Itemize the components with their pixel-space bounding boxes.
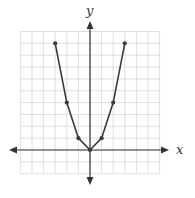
data-point xyxy=(100,136,104,140)
data-point xyxy=(88,148,92,152)
y-axis-label: y xyxy=(85,3,94,18)
data-point xyxy=(123,41,127,45)
y-axis-arrow-up-icon xyxy=(87,21,94,29)
x-axis-arrow-left-icon xyxy=(9,147,17,154)
x-axis-arrow-right-icon xyxy=(161,147,169,154)
data-point xyxy=(111,101,115,105)
parabola-chart: x y xyxy=(0,0,195,198)
data-point xyxy=(53,41,57,45)
data-point xyxy=(76,136,80,140)
data-point xyxy=(65,101,69,105)
x-axis-label: x xyxy=(176,142,184,157)
y-axis-arrow-down-icon xyxy=(87,177,94,185)
